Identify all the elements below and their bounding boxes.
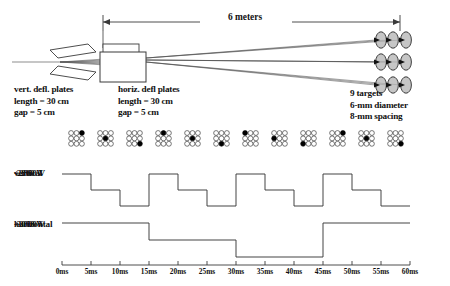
horizontal-plates-gap: gap = 5 cm [118,107,179,119]
time-tick-label: 55ms [373,267,389,276]
vertical-plates-label-block: vert. defl. plates length = 30 cm gap = … [14,84,73,119]
target-grid-row [69,131,404,147]
targets-label-block: 9 targets 6-mm diameter 8-mm spacing [350,88,408,123]
horizontal-plates-length: length = 30 cm [118,96,179,108]
horizontal-trace-vmin: -3000 V [14,219,43,231]
time-tick-label: 25ms [199,267,215,276]
time-tick-label: 5ms [85,267,98,276]
vertical-plates-length: length = 30 cm [14,96,73,108]
horizontal-plates-name: horiz. defl plates [118,84,179,96]
waveform-traces [62,174,410,257]
time-tick-label: 60ms [402,267,418,276]
vertical-trace-vmin: -2800 V [14,168,43,180]
diagram-vector-layer [0,0,450,286]
vertical-plates-gap: gap = 5 cm [14,107,73,119]
diagram-canvas: 6 meters vert. defl. plates length = 30 … [0,0,450,286]
horizontal-plates-label-block: horiz. defl plates length = 30 cm gap = … [118,84,179,119]
time-tick-label: 10ms [112,267,128,276]
targets-diameter: 6-mm diameter [350,100,408,112]
time-tick-label: 30ms [228,267,244,276]
time-tick-label: 40ms [286,267,302,276]
targets-spacing: 8-mm spacing [350,111,408,123]
time-tick-label: 20ms [170,267,186,276]
time-tick-label: 0ms [56,267,69,276]
targets-count: 9 targets [350,88,408,100]
apparatus-group [12,15,411,93]
vertical-plates-name: vert. defl. plates [14,84,73,96]
dimension-label-6-meters: 6 meters [225,12,265,22]
time-tick-label: 45ms [315,267,331,276]
time-tick-label: 15ms [141,267,157,276]
time-axis [62,261,410,265]
time-tick-label: 35ms [257,267,273,276]
time-tick-label: 50ms [344,267,360,276]
